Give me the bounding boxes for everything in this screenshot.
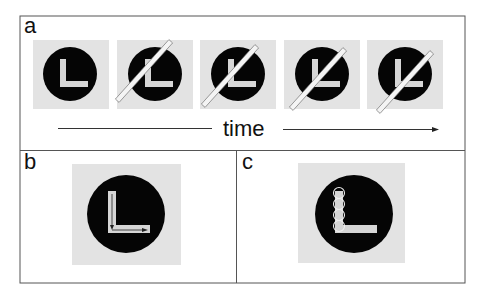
disk xyxy=(87,175,165,253)
disk xyxy=(378,47,432,101)
disk xyxy=(211,47,265,101)
panel-a-frames xyxy=(33,40,443,114)
arrow-head-icon xyxy=(432,127,439,132)
panel-label-b: b xyxy=(24,151,36,173)
time-axis-label: time xyxy=(223,118,265,140)
panel-a-frame-5 xyxy=(367,40,443,113)
panel-c-stimulus xyxy=(298,163,405,263)
panel-a-frame-3 xyxy=(200,40,276,109)
panel-a-frame-4 xyxy=(284,40,360,110)
panel-label-a: a xyxy=(24,15,36,37)
panel-b-stimulus xyxy=(72,164,181,265)
figure-canvas xyxy=(0,0,487,296)
panel-a-frame-1 xyxy=(33,40,109,109)
panel-a-frame-2 xyxy=(115,40,193,109)
disk xyxy=(315,175,393,253)
panel-label-c: c xyxy=(242,151,253,173)
disk xyxy=(43,47,97,101)
